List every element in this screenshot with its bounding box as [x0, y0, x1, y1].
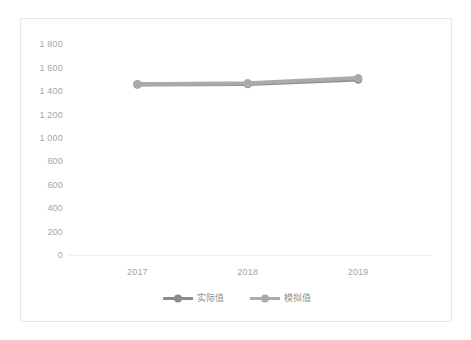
legend-label: 实际值: [197, 293, 224, 304]
series-plot: [21, 19, 453, 323]
plot-area: 1 8001 6001 4001 2001 0008006004002000 2…: [21, 19, 453, 323]
x-axis-tick-label: 2018: [218, 267, 278, 277]
chart-figure: 1 8001 6001 4001 2001 0008006004002000 2…: [20, 18, 452, 322]
legend-marker-icon: [250, 293, 280, 304]
data-point-marker: [244, 79, 252, 87]
x-axis-tick-label: 2017: [107, 267, 167, 277]
legend-label: 模拟值: [284, 293, 311, 304]
legend-entry[interactable]: 实际值: [163, 293, 224, 304]
data-point-marker: [354, 74, 362, 82]
data-point-marker: [133, 80, 141, 88]
x-axis-tick-label: 2019: [328, 267, 388, 277]
legend-marker-icon: [163, 293, 193, 304]
chart-legend: 实际值模拟值: [21, 293, 453, 304]
legend-entry[interactable]: 模拟值: [250, 293, 311, 304]
